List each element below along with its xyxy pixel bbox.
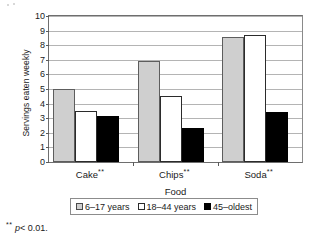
bar [97, 116, 119, 162]
legend-item: 45–oldest [204, 202, 252, 212]
y-axis-tick-label: 10 [35, 12, 45, 21]
category-separator-tick [218, 162, 219, 166]
x-axis-tick-label-text: Chips [159, 169, 183, 180]
significance-marker: ** [183, 168, 189, 175]
category-separator-tick [133, 162, 134, 166]
x-axis-tick-label-text: Soda [245, 169, 267, 180]
scan-speck [7, 4, 9, 6]
bar [222, 37, 244, 162]
y-axis-tick-label: 9 [40, 26, 45, 35]
x-axis-tick-label: Soda** [217, 168, 301, 180]
x-axis-tick-label: Cake** [48, 168, 132, 180]
y-axis-title: Servings eaten weekly [21, 13, 31, 173]
scan-speck [13, 3, 15, 5]
x-axis-title: Food [48, 186, 303, 197]
bar [75, 111, 97, 162]
y-axis-tick-label: 8 [40, 41, 45, 50]
bars-layer [49, 16, 302, 162]
y-axis-tick-label: 7 [40, 55, 45, 64]
bar [138, 61, 160, 162]
y-axis-tick-label: 1 [40, 143, 45, 152]
legend-item: 6–17 years [76, 202, 130, 212]
chart-legend: 6–17 years18–44 years45–oldest [70, 198, 258, 215]
footnote-significance-marks: ** [6, 221, 12, 228]
significance-marker: ** [98, 168, 104, 175]
significance-marker: ** [267, 168, 273, 175]
legend-item-label: 45–oldest [213, 202, 252, 212]
plot-area: 109876543210 [48, 15, 303, 163]
legend-swatch-white [138, 203, 145, 210]
y-axis-tick-label: 5 [40, 85, 45, 94]
footnote: ** p< 0.01. [6, 221, 48, 233]
y-axis-tick-label: 2 [40, 128, 45, 137]
bar [160, 96, 182, 162]
bar [53, 89, 75, 162]
y-axis-tick-label: 3 [40, 114, 45, 123]
x-axis-tick-label-text: Cake [76, 169, 98, 180]
y-axis-tick-label: 4 [40, 99, 45, 108]
legend-swatch-gray [76, 203, 83, 210]
y-axis-tick-mark [46, 162, 49, 163]
y-axis-tick-label: 0 [40, 158, 45, 167]
y-axis-tick-label: 6 [40, 70, 45, 79]
x-axis-tick-label: Chips** [132, 168, 216, 180]
bar [244, 35, 266, 162]
legend-item: 18–44 years [138, 202, 197, 212]
bar-chart-figure: Servings eaten weekly 109876543210 Cake*… [0, 0, 316, 239]
footnote-text: < 0.01. [20, 223, 48, 233]
bar [266, 112, 288, 162]
legend-item-label: 18–44 years [147, 202, 197, 212]
legend-swatch-black [204, 203, 211, 210]
legend-item-label: 6–17 years [85, 202, 130, 212]
bar [182, 128, 204, 162]
